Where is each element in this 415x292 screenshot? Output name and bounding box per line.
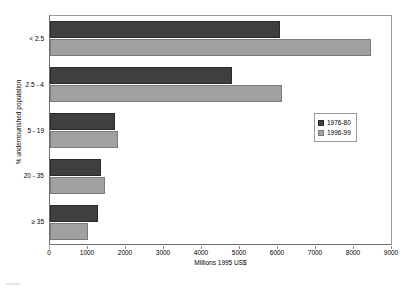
- bar: [50, 131, 118, 148]
- y-axis-category-label: ≥ 35: [31, 218, 44, 226]
- y-axis-category-label: 5 - 19: [27, 127, 44, 135]
- bar: [50, 39, 371, 56]
- x-axis-tick-label: 9000: [384, 249, 398, 257]
- x-axis-tick-label: 2000: [118, 249, 132, 257]
- y-axis-title: % undernourished population: [15, 52, 23, 192]
- bar: [50, 205, 98, 222]
- bar: [50, 113, 115, 130]
- x-axis-tick-label: 3000: [156, 249, 170, 257]
- y-axis-category-label: 2.5 - 4: [26, 81, 44, 89]
- y-axis-category-label: < 2.5: [29, 35, 44, 43]
- bar: [50, 85, 282, 102]
- x-axis-tick-label: 1000: [80, 249, 94, 257]
- bar: [50, 21, 280, 38]
- x-axis-tick-label: 8000: [346, 249, 360, 257]
- legend-swatch-icon: [318, 130, 324, 136]
- x-axis-tick-label: 5000: [232, 249, 246, 257]
- bar: [50, 177, 105, 194]
- legend-label: 1996-99: [327, 129, 351, 136]
- x-axis-tick-label: 4000: [194, 249, 208, 257]
- x-axis-tick-label: 0: [47, 249, 51, 257]
- bar-chart: < 2.52.5 - 45 - 1920 - 35≥ 35 % undernou…: [0, 0, 415, 292]
- bar: [50, 67, 232, 84]
- bar-group: [50, 159, 392, 194]
- bar-group: [50, 21, 392, 56]
- bar: [50, 223, 88, 240]
- y-axis-category-label: 20 - 35: [24, 172, 44, 180]
- bar: [50, 159, 101, 176]
- x-axis-tick-labels: 0100020003000400050006000700080009000: [49, 246, 392, 258]
- bar-group: [50, 205, 392, 240]
- legend-label: 1976-80: [327, 119, 351, 126]
- bar-group: [50, 67, 392, 102]
- x-axis-tick-label: 6000: [270, 249, 284, 257]
- x-axis-tick-label: 7000: [308, 249, 322, 257]
- legend-item: 1976-80: [318, 118, 351, 127]
- legend: 1976-801996-99: [314, 113, 357, 142]
- legend-item: 1996-99: [318, 128, 351, 137]
- x-axis-title: Millions 1995 US$: [49, 259, 392, 267]
- legend-swatch-icon: [318, 120, 324, 126]
- scan-artifact: [6, 283, 20, 285]
- y-axis-category-labels: < 2.52.5 - 45 - 1920 - 35≥ 35: [0, 16, 49, 245]
